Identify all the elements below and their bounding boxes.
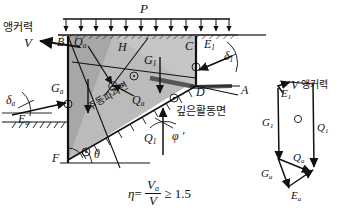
force-G1-label: G1 xyxy=(144,54,156,67)
polygon-Ea-label: Ea xyxy=(291,190,301,202)
force-Ga-label: Ga xyxy=(51,82,63,95)
anchor-force-V-label: V xyxy=(24,36,32,49)
anchor-force-korean-label: 앵커력 xyxy=(3,22,33,33)
safety-factor-equation: η= Va V ≥ 1.5 xyxy=(128,178,191,207)
deep-slip-surface-label: 깊은활동면 xyxy=(176,106,226,117)
polygon-E1-label: E1 xyxy=(281,88,291,100)
force-Q1-label: Q1 xyxy=(144,132,156,145)
equation-value: 1.5 xyxy=(175,186,191,201)
point-H-label: H xyxy=(118,41,127,53)
angle-delta-a-label: δa xyxy=(6,94,15,107)
polygon-Q1-label: Q1 xyxy=(317,122,328,134)
polygon-V-label: V xyxy=(291,79,298,91)
point-C-label: C xyxy=(185,40,193,52)
angle-phi-prime-label: φ ′ xyxy=(172,130,184,142)
polygon-Qa-label: Qa xyxy=(293,152,304,164)
point-F-label: F xyxy=(52,152,59,164)
equation-numerator: Va xyxy=(145,178,161,194)
polygon-Ga-label: Ga xyxy=(261,168,272,180)
point-D-label: D xyxy=(196,86,205,98)
excavation-level-left xyxy=(2,113,68,128)
surcharge-P-label: P xyxy=(140,2,148,15)
angle-delta-1-label: δ1 xyxy=(224,50,233,63)
force-E1-label: E1 xyxy=(204,38,215,51)
point-A-label: A xyxy=(241,84,248,96)
ground-surface xyxy=(58,35,266,39)
equation-relation: ≥ xyxy=(164,186,171,201)
force-Ea-label: Ea xyxy=(18,113,29,126)
point-B-label: B xyxy=(57,36,64,48)
polygon-G1-label: G1 xyxy=(262,117,273,129)
surcharge-load-arrows xyxy=(63,19,230,31)
polygon-anchor-korean-label: 앵커력 xyxy=(301,80,328,90)
force-Qa-upper-label: Qa xyxy=(74,36,86,49)
force-Qa-lower-label: Qa xyxy=(132,94,144,107)
angle-theta-label: θ xyxy=(94,148,100,160)
figure-canvas: 앵커력 V P B H C D A F Qa Qa Ga G1 E1 Ea Q1… xyxy=(0,0,339,214)
equation-denominator: V xyxy=(145,194,161,207)
